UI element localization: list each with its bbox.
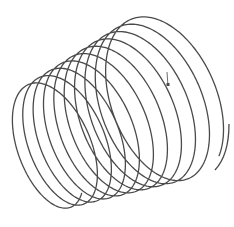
arrow-marker-icon — [167, 72, 170, 86]
helical-spring-coil — [12, 17, 223, 208]
spring-canvas — [0, 0, 234, 227]
